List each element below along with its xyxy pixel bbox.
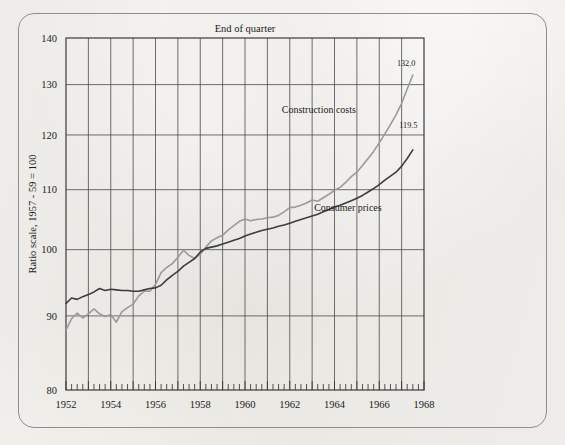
x-tick-label: 1956: [145, 399, 166, 410]
chart-title: End of quarter: [215, 23, 276, 34]
x-tick-label: 1964: [324, 399, 346, 410]
y-tick-label: 80: [47, 385, 58, 396]
y-axis-title: Ratio scale, 1957 - 59 = 100: [27, 155, 38, 274]
x-tick-label: 1958: [190, 399, 211, 410]
series-label-construction-costs: Construction costs: [282, 104, 356, 115]
y-tick-label: 100: [41, 244, 57, 255]
chart-figure: 8090100110120130140 19521954195619581960…: [0, 0, 565, 445]
end-value-construction-costs: 132.0: [397, 59, 415, 68]
end-value-consumer-prices: 119.5: [399, 121, 417, 130]
x-tick-labels-group: 195219541956195819601962196419661968: [56, 399, 435, 410]
y-tick-label: 90: [47, 311, 58, 322]
x-tick-label: 1954: [100, 399, 122, 410]
series-label-consumer-prices: Consumer prices: [314, 202, 382, 213]
y-tick-label: 110: [42, 184, 57, 195]
x-tick-label: 1962: [279, 399, 300, 410]
y-tick-labels-group: 8090100110120130140: [41, 33, 57, 396]
y-tick-label: 140: [41, 33, 57, 44]
x-tick-label: 1966: [369, 399, 390, 410]
minor-ticks-group: [66, 381, 424, 390]
gridlines-group: [66, 38, 424, 390]
y-tick-label: 130: [41, 79, 57, 90]
y-tick-label: 120: [41, 130, 57, 141]
x-tick-label: 1952: [56, 399, 77, 410]
line-consumer-prices: [66, 150, 413, 304]
x-tick-label: 1968: [414, 399, 435, 410]
x-tick-label: 1960: [235, 399, 256, 410]
